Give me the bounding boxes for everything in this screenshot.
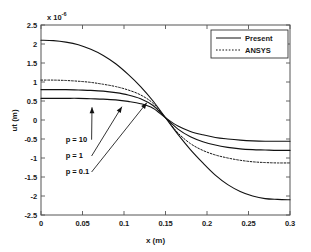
exponent-base: x 10: [47, 13, 62, 22]
y-tick-label: 2.5: [7, 21, 37, 30]
x-tick-label: 0.3: [276, 219, 304, 228]
y-tick-label: -2.5: [7, 211, 37, 220]
x-tick-label: 0: [27, 219, 55, 228]
x-tick-label: 0.05: [69, 219, 97, 228]
legend-label-present: Present: [245, 34, 273, 43]
chart-figure-root: x 10-6 x (m) ut (m) Present ANSYS 00.050…: [0, 0, 311, 252]
y-tick-label: -1.5: [7, 173, 37, 182]
y-tick-label: -1: [7, 154, 37, 163]
y-tick-label: 1.5: [7, 59, 37, 68]
x-tick-label: 0.1: [110, 219, 138, 228]
y-tick-label: -0.5: [7, 135, 37, 144]
y-tick-label: 1: [7, 78, 37, 87]
x-tick-label: 0.15: [152, 219, 180, 228]
x-axis-title: x (m): [0, 236, 311, 245]
y-tick-label: 0: [7, 116, 37, 125]
exponent-power: -6: [62, 11, 67, 17]
y-tick-label: 2: [7, 40, 37, 49]
curve-annotation-label: p = 1: [66, 151, 83, 160]
y-axis-exponent-label: x 10-6: [47, 11, 67, 22]
y-tick-label: 0.5: [7, 97, 37, 106]
y-tick-label: -2: [7, 192, 37, 201]
x-tick-label: 0.2: [193, 219, 221, 228]
curve-annotation-label: p = 10: [66, 135, 87, 144]
legend-label-ansys: ANSYS: [245, 46, 271, 55]
curve-annotation-label: p = 0.1: [66, 167, 90, 176]
x-tick-label: 0.25: [235, 219, 263, 228]
